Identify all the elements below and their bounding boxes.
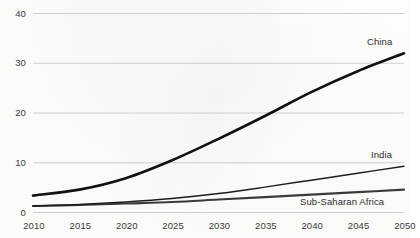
series-label-sub-saharan-africa: Sub-Saharan Africa [300,197,384,207]
y-axis-tick-0: 0 [0,208,26,218]
y-axis-tick-40: 40 [0,9,26,19]
series-label-india: India [371,150,392,160]
x-axis-tick-2050: 2050 [385,221,420,231]
y-axis-tick-30: 30 [0,58,26,68]
x-axis-tick-2015: 2015 [60,221,100,231]
y-axis-tick-10: 10 [0,158,26,168]
x-axis-tick-2010: 2010 [14,221,54,231]
x-axis-tick-2030: 2030 [200,221,240,231]
x-axis-tick-2040: 2040 [292,221,332,231]
series-label-china: China [367,37,392,47]
series-lines [33,53,404,206]
y-axis-tick-20: 20 [0,108,26,118]
gridlines [33,14,404,213]
x-axis-tick-2025: 2025 [153,221,193,231]
x-axis-tick-2045: 2045 [339,221,379,231]
x-axis-tick-2035: 2035 [246,221,286,231]
x-axis-tick-2020: 2020 [107,221,147,231]
